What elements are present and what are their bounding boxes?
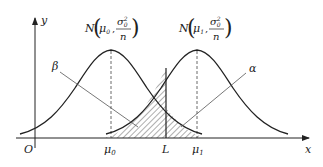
svg-text:σ02: σ02 — [210, 15, 221, 28]
normal-distribution-diagram: y x O μ0 L μ1 β α N ( μ0 , σ02 n ) N ( μ… — [0, 0, 323, 167]
svg-text:σ02: σ02 — [117, 15, 128, 28]
beta-region-hatch — [105, 68, 166, 138]
diagram-canvas: y x O μ0 L μ1 β α N ( μ0 , σ02 n ) N ( μ… — [0, 0, 323, 167]
svg-text:n: n — [213, 31, 219, 42]
svg-text:): ) — [131, 15, 140, 40]
svg-text:μ0: μ0 — [99, 22, 110, 35]
alpha-pointer-line — [181, 73, 246, 127]
svg-text:): ) — [224, 15, 233, 40]
beta-pointer-line — [60, 72, 138, 127]
origin-label: O — [24, 143, 33, 156]
svg-text:,: , — [205, 23, 208, 34]
y-axis-label: y — [40, 14, 48, 27]
mu1-tick-label: μ1 — [192, 143, 204, 157]
svg-text:n: n — [120, 31, 126, 42]
critical-value-label: L — [161, 143, 169, 156]
alpha-label: α — [249, 62, 257, 75]
mu0-tick-label: μ0 — [104, 143, 116, 157]
svg-text:μ1: μ1 — [193, 22, 204, 35]
null-distribution-label: N ( μ0 , σ02 n ) — [84, 15, 140, 42]
alpha-region-hatch — [166, 108, 200, 138]
alternative-distribution-label: N ( μ1 , σ02 n ) — [178, 15, 233, 42]
beta-label: β — [51, 60, 58, 73]
x-axis-label: x — [305, 143, 312, 156]
svg-text:,: , — [112, 23, 115, 34]
